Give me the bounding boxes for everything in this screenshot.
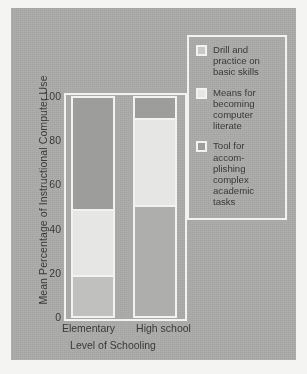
legend-item-means[interactable]: Means for becoming computer literate (196, 87, 279, 132)
legend-swatch-tool (196, 141, 207, 152)
y-tick-40: 40 (31, 224, 61, 235)
y-axis-tick-group: 100 80 60 40 20 0 (27, 8, 61, 374)
x-axis-title: Level of Schooling (33, 339, 193, 351)
legend-label-tool: Tool for accom- plishing complex academi… (213, 140, 254, 207)
bar-highschool[interactable] (133, 96, 177, 318)
legend: Drill and practice on basic skills Means… (187, 35, 287, 220)
segment-highschool-tool[interactable] (135, 98, 175, 120)
legend-swatch-drill (196, 45, 207, 56)
x-tick-high-school: High school (126, 322, 201, 338)
legend-swatch-means (196, 88, 207, 99)
bar-elementary[interactable] (71, 96, 115, 318)
chart-plate: Mean Percentage of Instructional Compute… (11, 8, 296, 360)
segment-elementary-tool[interactable] (73, 98, 113, 211)
figure-page: Mean Percentage of Instructional Compute… (0, 0, 307, 374)
y-tick-100: 100 (31, 91, 61, 102)
segment-highschool-drill[interactable] (135, 207, 175, 316)
x-axis-tick-group: Elementary High school (51, 322, 201, 338)
legend-item-drill[interactable]: Drill and practice on basic skills (196, 44, 279, 78)
segment-highschool-means[interactable] (135, 120, 175, 207)
y-tick-0: 0 (31, 312, 61, 323)
plot-area (67, 96, 184, 318)
legend-label-means: Means for becoming computer literate (213, 87, 256, 132)
x-tick-elementary: Elementary (51, 322, 126, 338)
y-tick-20: 20 (31, 268, 61, 279)
legend-item-tool[interactable]: Tool for accom- plishing complex academi… (196, 140, 279, 207)
y-tick-60: 60 (31, 179, 61, 190)
segment-elementary-drill[interactable] (73, 277, 113, 316)
y-tick-80: 80 (31, 135, 61, 146)
segment-elementary-means[interactable] (73, 211, 113, 276)
legend-label-drill: Drill and practice on basic skills (213, 44, 260, 78)
